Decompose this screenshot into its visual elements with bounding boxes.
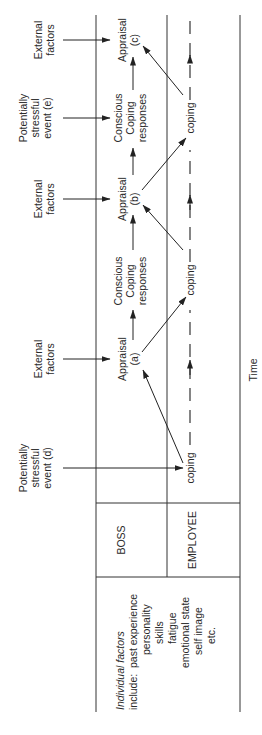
node-appraisal-c: Appraisal (c) [116,18,140,62]
arrow-appraisal-a-to-coping-2 [142,297,186,352]
factor-item: personality [140,603,152,655]
node-appraisal-a: Appraisal (a) [116,337,140,381]
arrow-coping-1-to-appraisal-a [143,370,183,463]
employee-nodes: coping coping coping [184,102,196,483]
svg-text:Coping: Coping [124,101,136,134]
input-event-d: Potentially stressful event (d) [17,443,53,492]
node-coping-3: coping [184,102,196,133]
svg-text:External: External [32,340,44,379]
node-conscious-coping-2: Conscious Coping responses [112,93,148,142]
svg-text:(b): (b) [128,193,140,206]
node-conscious-coping-1: Conscious Coping responses [112,256,148,305]
svg-text:Conscious: Conscious [112,93,124,142]
node-coping-2: coping [184,264,196,295]
factor-item: fatigue [166,612,178,644]
svg-text:Time: Time [247,358,259,381]
svg-text:(c): (c) [128,34,140,46]
input-external-factors-c: External factors [32,21,56,60]
factor-item: emotional state [179,597,191,668]
svg-text:coping: coping [184,452,196,483]
input-labels: Potentially stressful event (d) External… [17,21,56,492]
svg-text:Coping: Coping [124,264,136,297]
node-coping-1: coping [184,452,196,483]
svg-text:Potentially: Potentially [17,443,29,492]
svg-text:responses: responses [136,94,148,142]
svg-text:coping: coping [184,264,196,295]
individual-factors: Individual factors include: past experie… [114,594,217,710]
include-label: include: [127,674,139,710]
svg-text:External: External [32,180,44,219]
svg-text:EMPLOYEE: EMPLOYEE [186,511,198,569]
svg-text:Potentially: Potentially [17,93,29,142]
factor-item: etc. [205,627,217,644]
svg-text:stressful: stressful [29,448,41,487]
svg-text:stressful: stressful [29,98,41,137]
input-event-e: Potentially stressful event (e) [17,93,53,142]
svg-text:factors: factors [44,183,56,215]
svg-text:factors: factors [44,24,56,56]
svg-text:Appraisal: Appraisal [116,18,128,62]
svg-text:External: External [32,21,44,60]
row-label-employee: EMPLOYEE [186,511,198,569]
factor-item: self image [192,607,204,655]
stress-coping-diagram: Potentially stressful event (d) External… [0,0,262,735]
arrow-coping-2-to-appraisal-b [143,205,183,250]
svg-text:factors: factors [44,343,56,375]
svg-text:responses: responses [136,257,148,305]
arrow-coping-3-to-appraisal-c [143,46,183,95]
svg-text:Conscious: Conscious [112,256,124,305]
input-external-factors-a: External factors [32,340,56,379]
row-label-boss: BOSS [115,525,127,554]
cross-band-arrows [142,46,186,463]
individual-factors-heading: Individual factors [114,630,126,710]
arrow-appraisal-b-to-coping-3 [142,138,186,190]
svg-text:coping: coping [184,102,196,133]
input-external-factors-b: External factors [32,180,56,219]
svg-text:event (d): event (d) [41,447,53,488]
time-axis-label: Time [247,358,259,381]
svg-text:Appraisal: Appraisal [116,337,128,381]
factor-item: past experience [127,594,139,668]
node-appraisal-b: Appraisal (b) [116,177,140,221]
factor-item: skills [153,621,165,644]
svg-text:Appraisal: Appraisal [116,177,128,221]
boss-nodes: Appraisal (a) Conscious Coping responses… [112,18,148,381]
svg-text:event (e): event (e) [41,97,53,138]
svg-text:BOSS: BOSS [115,525,127,554]
svg-text:(a): (a) [128,353,140,366]
